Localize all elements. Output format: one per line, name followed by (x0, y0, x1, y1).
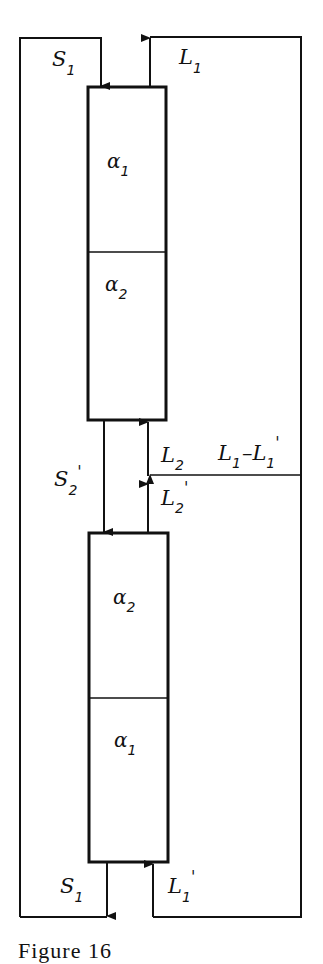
upper-section-1-label: α1 (107, 149, 129, 179)
s2-prime-label: S2' (54, 462, 82, 498)
upper-section-2-label: α2 (105, 272, 128, 302)
l1-top-line (150, 37, 301, 917)
s1-top-label: S1 (52, 47, 75, 78)
s1-bottom-label: S1 (60, 874, 83, 905)
l2-label: L2 (160, 443, 184, 473)
l1-stream-loop (150, 37, 301, 917)
lower-section-2-label: α1 (114, 728, 136, 758)
upper-column: α1 α2 (88, 87, 166, 420)
l2-prime-label: L2' (160, 478, 188, 516)
upper-column-box (88, 87, 166, 420)
lower-column: α2 α1 (89, 533, 168, 862)
lower-section-1-label: α2 (113, 585, 136, 615)
l1-prime-bottom-label: L1' (167, 867, 195, 905)
l1-minus-l1-prime-label: L1–L1' (217, 433, 280, 471)
figure-caption-fragment: Figure 16 (18, 938, 112, 964)
inter-column-streams (104, 421, 301, 532)
l1-top-label: L1 (178, 45, 202, 76)
